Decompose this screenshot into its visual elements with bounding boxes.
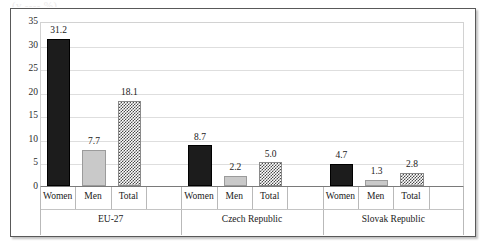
y-axis-tick-label: 10 <box>12 135 38 145</box>
x-axis-group-label: Czech Republic <box>222 214 282 225</box>
bar-value-label: 31.2 <box>50 26 67 36</box>
bar-eu-27-total <box>118 101 141 186</box>
bar-slovak-republic-women <box>330 164 353 186</box>
bar-value-label: 18.1 <box>121 88 138 98</box>
y-axis-tick-label: 35 <box>12 17 38 27</box>
x-axis-sub-label: Total <box>260 191 279 202</box>
x-axis-sub-label: Men <box>226 191 243 202</box>
y-axis-tick-label: 30 <box>12 41 38 51</box>
y-axis-tick-label: 5 <box>12 159 38 169</box>
x-axis-sub-separator <box>287 187 288 209</box>
gridline <box>41 70 463 71</box>
x-axis-sub-separator <box>358 187 359 209</box>
bar-value-label: 4.7 <box>335 151 347 161</box>
bar-czech-republic-total <box>259 162 282 186</box>
x-axis-sub-label: Women <box>184 191 213 202</box>
x-axis-left-rule <box>40 187 41 235</box>
bar-slovak-republic-total <box>400 173 423 186</box>
bar-value-label: 2.2 <box>229 163 241 173</box>
x-axis-sub-separator <box>146 187 147 209</box>
gridline <box>41 141 463 142</box>
plot-area: 31.27.718.18.72.25.04.71.32.8 <box>40 22 464 187</box>
y-axis-tick-label: 0 <box>12 182 38 192</box>
x-axis-sub-separator <box>75 187 76 209</box>
cut-off-caption: (v ---- %) <box>12 0 57 7</box>
x-axis-sub-separator <box>252 187 253 209</box>
bar-value-label: 5.0 <box>265 150 277 160</box>
x-axis-sub-label: Women <box>326 191 355 202</box>
y-axis-tick-label: 25 <box>12 64 38 74</box>
x-axis-group-label: Slovak Republic <box>362 214 425 225</box>
bar-eu-27-men <box>82 150 105 186</box>
bar-czech-republic-women <box>188 145 211 186</box>
bar-slovak-republic-men <box>365 180 388 186</box>
gridline <box>41 94 463 95</box>
gridline <box>41 47 463 48</box>
x-axis-sub-separator <box>393 187 394 209</box>
y-axis-tick-label: 15 <box>12 112 38 122</box>
x-axis-right-rule <box>463 187 464 235</box>
bar-czech-republic-men <box>224 176 247 186</box>
x-axis-sub-label: Men <box>367 191 384 202</box>
x-axis-sub-separator <box>111 187 112 209</box>
x-axis-sub-label: Women <box>43 191 72 202</box>
x-axis-group-separator <box>323 187 324 235</box>
bar-value-label: 8.7 <box>194 133 206 143</box>
x-axis-group-label: EU-27 <box>98 214 123 225</box>
x-axis-mid-rule <box>40 209 464 210</box>
bar-chart: 05101520253035 31.27.718.18.72.25.04.71.… <box>11 9 475 236</box>
bar-value-label: 2.8 <box>406 160 418 170</box>
figure-frame: 05101520253035 31.27.718.18.72.25.04.71.… <box>10 8 476 237</box>
x-axis: EU-27WomenMenTotalCzech RepublicWomenMen… <box>40 187 464 235</box>
x-axis-sub-separator <box>217 187 218 209</box>
x-axis-group-separator <box>181 187 182 235</box>
bar-eu-27-women <box>47 39 70 186</box>
gridline <box>41 117 463 118</box>
x-axis-sub-label: Men <box>84 191 101 202</box>
x-axis-sub-separator <box>429 187 430 209</box>
bar-value-label: 1.3 <box>371 167 383 177</box>
y-axis: 05101520253035 <box>11 22 38 187</box>
x-axis-sub-label: Total <box>119 191 138 202</box>
y-axis-tick-label: 20 <box>12 88 38 98</box>
x-axis-sub-label: Total <box>401 191 420 202</box>
bar-value-label: 7.7 <box>88 137 100 147</box>
